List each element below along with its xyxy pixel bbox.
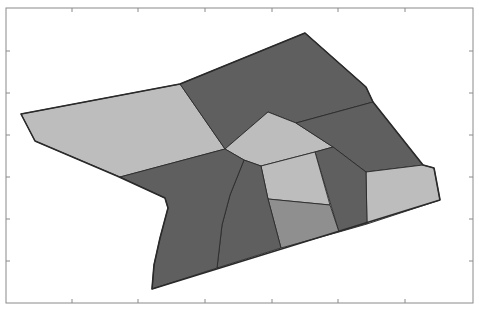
voronoi-figure [0,0,479,316]
cell-right-light [366,165,440,224]
plot-canvas [0,0,479,316]
